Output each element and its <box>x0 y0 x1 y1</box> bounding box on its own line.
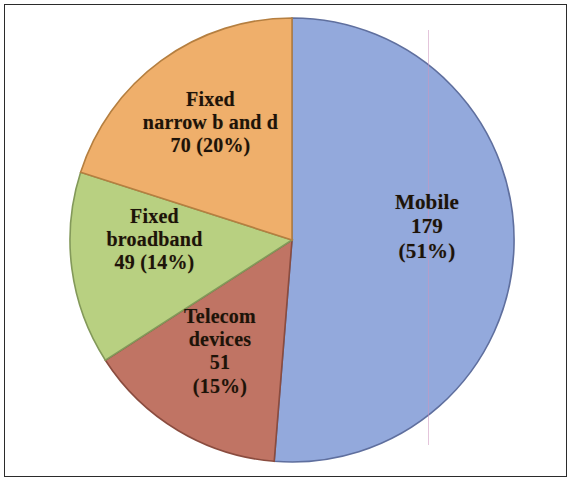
slice-label-fixed-narrowband-line-2: narrow b and d <box>108 111 313 134</box>
slice-label-fixed-broadband-line-3: 49 (14%) <box>62 251 247 274</box>
slice-label-telecom-devices-line-1: Telecom <box>150 305 290 328</box>
slice-label-telecom-devices-line-3: 51 <box>150 351 290 374</box>
slice-label-fixed-broadband-line-1: Fixed <box>62 205 247 228</box>
slice-label-mobile-line-2: 179 <box>352 214 502 238</box>
slice-label-mobile-line-1: Mobile <box>352 190 502 214</box>
slice-label-mobile: Mobile 179 (51%) <box>352 190 502 263</box>
slice-label-telecom-devices-line-2: devices <box>150 328 290 351</box>
pie-chart-area: Mobile 179 (51%) Fixed narrow b and d 70… <box>0 0 574 485</box>
slice-label-telecom-devices-line-4: (15%) <box>150 375 290 398</box>
slice-label-telecom-devices: Telecom devices 51 (15%) <box>150 305 290 398</box>
slice-label-fixed-narrowband-line-1: Fixed <box>108 88 313 111</box>
slice-label-fixed-narrowband: Fixed narrow b and d 70 (20%) <box>108 88 313 158</box>
slice-label-fixed-narrowband-line-3: 70 (20%) <box>108 134 313 157</box>
slice-label-mobile-line-3: (51%) <box>352 239 502 263</box>
pie-chart-figure: Mobile 179 (51%) Fixed narrow b and d 70… <box>0 0 574 485</box>
slice-label-fixed-broadband-line-2: broadband <box>62 228 247 251</box>
slice-label-fixed-broadband: Fixed broadband 49 (14%) <box>62 205 247 275</box>
